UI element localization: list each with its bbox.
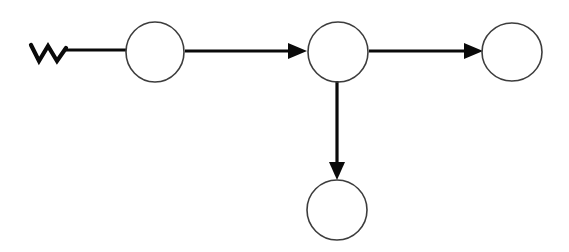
diagram-background [0,0,569,252]
diagram-canvas [0,0,569,252]
